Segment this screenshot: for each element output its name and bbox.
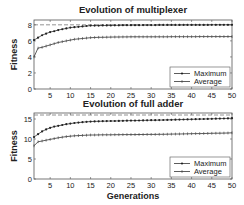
x-tick-label: 40 (187, 91, 195, 100)
y-tick-label: 10 (24, 135, 32, 144)
x-tick-label: 50 (228, 91, 236, 100)
legend: MaximumAverage (170, 67, 230, 87)
x-tick-label: 45 (208, 91, 216, 100)
y-tick-label: 4 (28, 53, 32, 62)
y-tick-label: 15 (24, 115, 32, 124)
x-tick-label: 10 (66, 91, 74, 100)
full-adder-chart: Evolution of full adder51015202530354045… (9, 98, 236, 201)
x-tick-label: 25 (127, 181, 135, 190)
legend-entry-average: Average (194, 167, 222, 176)
y-tick-label: 0 (28, 85, 32, 94)
chart-title: Evolution of full adder (83, 98, 184, 109)
chart-title: Evolution of multiplexer (79, 4, 188, 15)
legend-entry-average: Average (194, 77, 222, 86)
x-tick-label: 30 (147, 181, 155, 190)
x-tick-label: 10 (66, 181, 74, 190)
multiplexer-chart: Evolution of multiplexer5101520253035404… (9, 4, 236, 100)
y-tick-label: 8 (28, 21, 32, 30)
legend: MaximumAverage (170, 157, 230, 177)
y-tick-label: 6 (28, 37, 32, 46)
y-tick-label: 0 (28, 175, 32, 184)
x-tick-label: 35 (167, 181, 175, 190)
x-tick-label: 15 (86, 181, 94, 190)
x-tick-label: 5 (48, 181, 52, 190)
figure: Evolution of multiplexer5101520253035404… (0, 0, 244, 205)
x-axis-label: Generations (107, 191, 160, 201)
y-tick-label: 2 (28, 69, 32, 78)
x-tick-label: 50 (228, 181, 236, 190)
y-axis-label: Fitness (9, 130, 19, 162)
y-axis-label: Fitness (9, 39, 19, 71)
x-tick-label: 40 (187, 181, 195, 190)
x-tick-label: 45 (208, 181, 216, 190)
y-tick-label: 5 (28, 155, 32, 164)
x-tick-label: 20 (107, 181, 115, 190)
x-tick-label: 5 (48, 91, 52, 100)
